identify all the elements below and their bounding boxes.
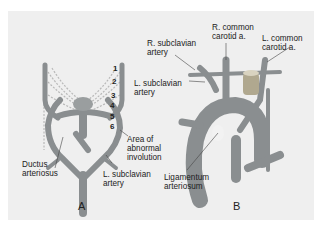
label-area-abnormal-involution: Area of abnormal involution	[127, 135, 162, 162]
label-ligamentum-arteriosum: Ligamentum arteriosum	[164, 173, 209, 191]
panel-a-drawing	[44, 65, 128, 213]
arch-number-6: 6	[110, 122, 114, 131]
arch-number-3: 3	[111, 91, 115, 100]
arch-number-1: 1	[113, 64, 117, 73]
label-l-common-carotid: L. common carotid a.	[262, 34, 303, 52]
label-b-l-subclavian: L. subclavian artery	[134, 79, 182, 97]
arch-number-5: 5	[110, 112, 114, 121]
label-ductus-arteriosus: Ductus arteriosus	[22, 160, 58, 178]
arch-number-4: 4	[110, 101, 114, 110]
label-r-common-carotid: R. common carotid a.	[212, 23, 254, 41]
label-a-l-subclavian: L. subclavian artery	[103, 170, 151, 188]
arch-number-2: 2	[112, 77, 116, 86]
label-r-subclavian: R. subclavian artery	[147, 39, 196, 57]
caption-a: A	[78, 200, 85, 212]
caption-b: B	[233, 200, 240, 212]
